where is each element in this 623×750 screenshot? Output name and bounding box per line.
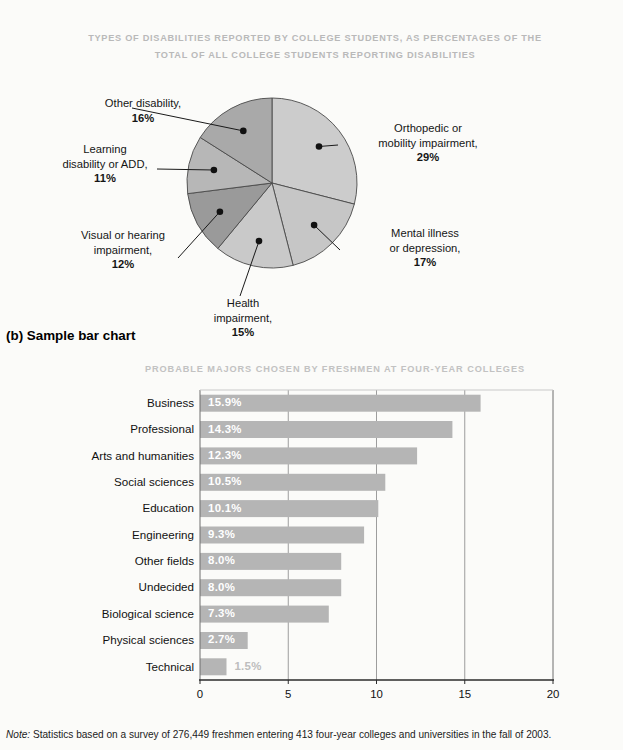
bar-chart-x-tick: 15 — [445, 688, 485, 700]
bar — [200, 395, 481, 412]
bar-chart-x-tick: 10 — [357, 688, 397, 700]
bar-value-label: 7.3% — [208, 607, 235, 619]
pie-label-mental-pct: 17% — [414, 256, 436, 268]
bar-value-label: 2.7% — [208, 633, 235, 645]
pie-label-health-line-1: Health — [227, 297, 259, 309]
figure-footnote: Note: Statistics based on a survey of 27… — [6, 729, 551, 740]
bar-value-label: 9.3% — [208, 528, 235, 540]
pie-leader-dot — [316, 143, 323, 150]
bar-category-label: Arts and humanities — [14, 449, 194, 462]
pie-label-mental-line-2: or depression, — [390, 242, 461, 254]
pie-label-other-line-1: Other disability, — [105, 97, 181, 109]
bar-value-label: 8.0% — [208, 581, 235, 593]
figure-page: TYPES OF DISABILITIES REPORTED BY COLLEG… — [0, 0, 623, 750]
bar-chart-x-tick: 5 — [268, 688, 308, 700]
pie-label-other: Other disability, 16% — [78, 96, 208, 125]
pie-label-health-line-2: impairment, — [214, 312, 272, 324]
pie-label-orthopedic-line-2: mobility impairment, — [378, 137, 477, 149]
pie-label-mental-line-1: Mental illness — [391, 227, 459, 239]
pie-label-learning: Learning disability or ADD, 11% — [40, 142, 170, 186]
bar-chart-x-tick: 0 — [180, 688, 220, 700]
bar-category-label: Technical — [14, 660, 194, 673]
pie-leader-dot — [240, 128, 247, 135]
bar-value-label: 14.3% — [208, 423, 242, 435]
pie-label-other-pct: 16% — [132, 112, 154, 124]
pie-label-visual-line-2: impairment, — [94, 244, 152, 256]
bar-category-label: Engineering — [14, 528, 194, 541]
pie-leader-dot — [311, 222, 318, 229]
bar-category-label: Physical sciences — [14, 633, 194, 646]
bar-value-label: 1.5% — [234, 660, 261, 672]
pie-label-orthopedic: Orthopedic or mobility impairment, 29% — [343, 121, 513, 165]
bar — [200, 658, 227, 675]
bar-category-label: Undecided — [14, 580, 194, 593]
pie-leader-dot — [211, 167, 218, 174]
bar-chart-title: PROBABLE MAJORS CHOSEN BY FRESHMEN AT FO… — [100, 364, 570, 374]
bar-value-label: 10.1% — [208, 502, 242, 514]
pie-label-visual-pct: 12% — [112, 258, 134, 270]
bar-category-label: Business — [14, 396, 194, 409]
pie-label-mental-illness: Mental illness or depression, 17% — [345, 226, 505, 270]
bar-value-label: 12.3% — [208, 449, 242, 461]
pie-label-visual-hearing: Visual or hearing impairment, 12% — [58, 228, 188, 272]
pie-label-health: Health impairment, 15% — [178, 296, 308, 340]
footnote-prefix: Note: — [6, 729, 30, 740]
pie-label-orthopedic-pct: 29% — [417, 151, 439, 163]
bar-chart-x-tick: 20 — [533, 688, 573, 700]
pie-leader-dot — [217, 208, 224, 215]
bar-value-label: 10.5% — [208, 475, 242, 487]
bar-category-label: Other fields — [14, 554, 194, 567]
pie-label-visual-line-1: Visual or hearing — [81, 229, 165, 241]
pie-label-learning-line-2: disability or ADD, — [62, 158, 147, 170]
pie-leader-dot — [256, 238, 263, 245]
bar-category-label: Professional — [14, 422, 194, 435]
bar-chart: BusinessProfessionalArts and humanitiesS… — [0, 380, 623, 710]
pie-label-learning-pct: 11% — [94, 172, 116, 184]
bar-category-label: Education — [14, 501, 194, 514]
pie-chart: Orthopedic or mobility impairment, 29% M… — [0, 0, 623, 330]
bar-value-label: 8.0% — [208, 554, 235, 566]
bar-category-label: Social sciences — [14, 475, 194, 488]
pie-label-learning-line-1: Learning — [83, 143, 127, 155]
footnote-text: Statistics based on a survey of 276,449 … — [30, 729, 551, 740]
bar-chart-bars — [200, 395, 481, 676]
section-b-caption: (b) Sample bar chart — [6, 328, 135, 343]
pie-label-health-pct: 15% — [232, 326, 254, 338]
pie-label-orthopedic-line-1: Orthopedic or — [394, 122, 462, 134]
bar-category-label: Biological science — [14, 607, 194, 620]
bar-value-label: 15.9% — [208, 396, 242, 408]
